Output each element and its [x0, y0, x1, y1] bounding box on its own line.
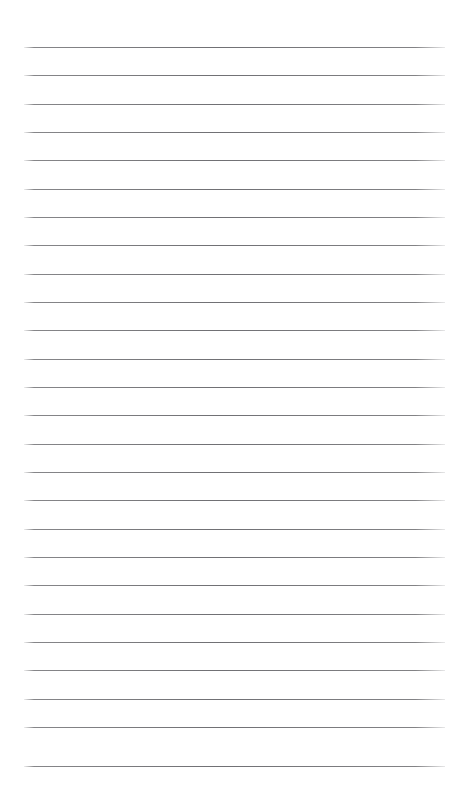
text-line-16[interactable] — [24, 444, 445, 472]
text-line-26[interactable] — [24, 727, 445, 766]
text-line-13[interactable] — [24, 359, 445, 387]
text-line-10[interactable] — [24, 274, 445, 302]
text-line-4[interactable] — [24, 104, 445, 132]
text-line-6[interactable] — [24, 160, 445, 189]
text-line-15[interactable] — [24, 415, 445, 444]
text-line-7[interactable] — [24, 189, 445, 217]
page-footer-margin — [0, 767, 459, 792]
text-line-20[interactable] — [24, 557, 445, 585]
ruled-line-stack — [0, 0, 459, 792]
text-line-18[interactable] — [24, 500, 445, 529]
text-line-11[interactable] — [24, 302, 445, 330]
text-line-14[interactable] — [24, 387, 445, 415]
text-line-21[interactable] — [24, 585, 445, 614]
text-line-9[interactable] — [24, 245, 445, 274]
text-line-17[interactable] — [24, 472, 445, 500]
text-line-22[interactable] — [24, 614, 445, 642]
text-line-2[interactable] — [24, 47, 445, 75]
text-line-3[interactable] — [24, 75, 445, 104]
text-line-12[interactable] — [24, 330, 445, 359]
text-line-23[interactable] — [24, 642, 445, 670]
text-line-25[interactable] — [24, 699, 445, 727]
notepad-page — [0, 0, 459, 792]
text-line-5[interactable] — [24, 132, 445, 160]
text-line-19[interactable] — [24, 529, 445, 557]
text-line-1[interactable] — [24, 19, 445, 47]
text-line-24[interactable] — [24, 670, 445, 699]
text-line-8[interactable] — [24, 217, 445, 245]
